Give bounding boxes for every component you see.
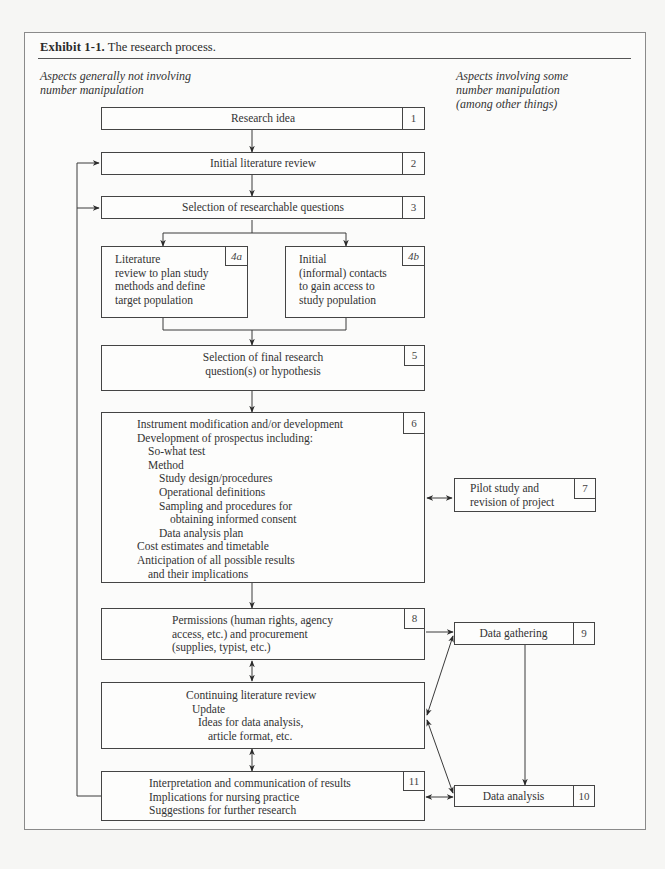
- step-text-line: Ideas for data analysis,: [186, 716, 424, 730]
- step-number: 3: [402, 196, 425, 219]
- step-text-line: Anticipation of all possible results: [137, 554, 424, 568]
- step-4b-initial-contacts: Initial (informal) contacts to gain acce…: [285, 246, 425, 318]
- step-3-selection-of-questions: Selection of researchable questions 3: [101, 196, 425, 219]
- step-text-line: (informal) contacts: [299, 267, 424, 281]
- step-7-pilot-study: Pilot study and revision of project 7: [454, 478, 596, 512]
- step-text: Data gathering: [479, 627, 547, 639]
- step-text-line: Data analysis plan: [137, 527, 424, 541]
- step-number: 6: [403, 412, 425, 434]
- step-text: Research idea: [231, 112, 295, 124]
- step-1-research-idea: Research idea 1: [101, 107, 425, 130]
- step-number: 9: [573, 622, 595, 645]
- step-text-line: (supplies, typist, etc.): [172, 641, 424, 655]
- step-number: 7: [574, 478, 596, 499]
- step-number: 10: [573, 785, 595, 807]
- step-text-line: Operational definitions: [137, 486, 424, 500]
- step-text-line: Cost estimates and timetable: [137, 540, 424, 554]
- step-text-line: Update: [186, 703, 424, 717]
- step-text-line: Implications for nursing practice: [149, 791, 424, 805]
- step-number: 2: [402, 152, 425, 175]
- step-text-line: question(s) or hypothesis: [102, 365, 424, 379]
- step-text-line: Continuing literature review: [186, 689, 424, 703]
- step-text: Selection of researchable questions: [182, 201, 344, 213]
- step-text-line: target population: [115, 294, 247, 308]
- step-text-line: So-what test: [137, 445, 424, 459]
- step-text-line: obtaining informed consent: [137, 513, 424, 527]
- step-text-line: review to plan study: [115, 267, 247, 281]
- arrow-9-clr: [427, 636, 453, 715]
- step-text-line: Interpretation and communication of resu…: [149, 777, 424, 791]
- feedback-arrow-to-2: [77, 163, 101, 796]
- step-text-line: Suggestions for further research: [149, 804, 424, 818]
- step-number: 8: [404, 608, 425, 629]
- step-text: Initial literature review: [210, 157, 316, 169]
- step-number: 1: [402, 107, 425, 130]
- step-4a-literature-review-plan: Literature review to plan study methods …: [101, 246, 248, 318]
- step-10-data-analysis: Data analysis 10: [454, 785, 595, 807]
- step-number: 4a: [225, 246, 248, 266]
- step-text-line: article format, etc.: [186, 730, 424, 744]
- arrow-clr-10: [427, 720, 453, 793]
- step-text-line: Study design/procedures: [137, 472, 424, 486]
- step-text: Data analysis: [483, 790, 545, 802]
- step-text-line: Sampling and procedures for: [137, 500, 424, 514]
- step-5-final-research-question: Selection of final research question(s) …: [101, 345, 425, 391]
- step-text-line: study population: [299, 294, 424, 308]
- step-number: 5: [404, 345, 425, 366]
- step-number: 4b: [402, 246, 425, 266]
- step-text-line: Permissions (human rights, agency: [172, 614, 424, 628]
- step-text-line: Development of prospectus including:: [137, 432, 424, 446]
- step-2-initial-literature-review: Initial literature review 2: [101, 152, 425, 175]
- step-6-instrument-and-prospectus: Instrument modification and/or developme…: [101, 412, 425, 583]
- step-text-line: Selection of final research: [102, 351, 424, 365]
- step-number: 11: [403, 771, 425, 791]
- step-9-data-gathering: Data gathering 9: [454, 622, 595, 645]
- step-8-permissions-procurement: Permissions (human rights, agency access…: [101, 608, 425, 660]
- step-text-line: Instrument modification and/or developme…: [137, 418, 424, 432]
- step-text-line: to gain access to: [299, 280, 424, 294]
- step-text-line: methods and define: [115, 280, 247, 294]
- continuing-literature-review: Continuing literature review Update Idea…: [101, 682, 425, 749]
- step-text-line: and their implications: [137, 568, 424, 582]
- step-11-interpretation-communication: Interpretation and communication of resu…: [101, 771, 425, 821]
- step-text-line: Method: [137, 459, 424, 473]
- step-text-line: access, etc.) and procurement: [172, 628, 424, 642]
